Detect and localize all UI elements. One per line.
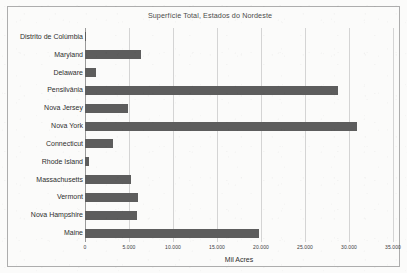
bar[interactable] [85,122,357,131]
bar-row[interactable] [85,206,393,224]
y-axis-label: Pensilvânia [1,86,83,93]
bar[interactable] [85,229,259,238]
x-axis-tick: 15.000 [209,244,225,250]
x-axis-tick: 5.000 [122,244,135,250]
bar[interactable] [85,175,131,184]
bar-row[interactable] [85,64,393,82]
x-axis-tick: 25.000 [297,244,313,250]
x-axis-tick: 20.000 [253,244,269,250]
bar-row[interactable] [85,135,393,153]
bar[interactable] [85,211,137,220]
bar[interactable] [85,193,138,202]
bar[interactable] [85,50,141,59]
bar[interactable] [85,139,113,148]
y-axis-label: Nova York [1,122,83,129]
y-axis-category-labels: Distrito de ColúmbiaMarylandDelawarePens… [0,28,83,242]
y-axis-label: Massachusetts [1,176,83,183]
x-axis-tick: 35.000 [385,244,401,250]
chart-screenshot: Superfície Total, Estados do Nordeste Di… [0,0,407,273]
y-axis-label: Nova Hampshire [1,211,83,218]
bar[interactable] [85,68,96,77]
gridline [393,28,394,242]
y-axis-label: Vermont [1,193,83,200]
x-axis-tick: 30.000 [341,244,357,250]
y-axis-label: Connecticut [1,140,83,147]
y-axis-label: Nova Jersey [1,104,83,111]
plot-area [85,28,393,242]
bar[interactable] [85,157,89,166]
x-axis-tick-labels: 05.00010.00015.00020.00025.00030.00035.0… [85,244,393,254]
bar-row[interactable] [85,171,393,189]
bar[interactable] [85,104,128,113]
bar-row[interactable] [85,82,393,100]
chart-title: Superfície Total, Estados do Nordeste [85,11,335,20]
bar-row[interactable] [85,189,393,207]
y-axis-label: Distrito de Colúmbia [1,33,83,40]
bar-row[interactable] [85,28,393,46]
x-axis-tick: 10.000 [165,244,181,250]
y-axis-label: Maryland [1,51,83,58]
bar-row[interactable] [85,46,393,64]
bar-row[interactable] [85,153,393,171]
y-axis-label: Rhode Island [1,158,83,165]
x-axis-title: Mil Acres [85,256,393,263]
x-axis-tick: 0 [84,244,87,250]
bar[interactable] [85,86,338,95]
y-axis-label: Maine [1,229,83,236]
y-axis-label: Delaware [1,69,83,76]
bar-row[interactable] [85,99,393,117]
bar-row[interactable] [85,224,393,242]
bar-row[interactable] [85,117,393,135]
